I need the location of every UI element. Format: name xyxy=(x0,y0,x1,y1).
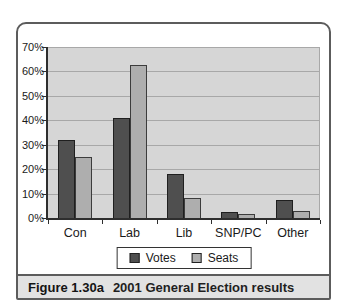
legend-item-votes: Votes xyxy=(130,251,176,265)
bar-votes-other xyxy=(276,200,293,218)
gridline xyxy=(48,145,320,146)
x-axis-label: Other xyxy=(266,226,320,240)
y-tick-label: 20% xyxy=(18,163,44,175)
x-axis-label: SNP/PC xyxy=(211,226,265,240)
y-tick-label: 60% xyxy=(18,65,44,77)
y-tick-label: 0% xyxy=(18,212,44,224)
bar-votes-con xyxy=(58,140,75,218)
y-tick-label: 30% xyxy=(18,139,44,151)
bar-seats-other xyxy=(293,211,310,218)
legend: VotesSeats xyxy=(117,247,252,269)
x-tick-mark xyxy=(157,220,158,224)
x-tick-mark xyxy=(320,220,321,224)
y-tick-label: 50% xyxy=(18,90,44,102)
x-tick-mark xyxy=(48,220,49,224)
legend-swatch-seats xyxy=(192,253,202,263)
bar-seats-lib xyxy=(184,198,201,218)
x-axis-line xyxy=(46,218,320,220)
gridline xyxy=(48,96,320,97)
y-tick-label: 10% xyxy=(18,188,44,200)
bar-seats-con xyxy=(75,157,92,218)
bar-votes-lab xyxy=(113,118,130,218)
figure-caption-title: 2001 General Election results xyxy=(113,280,294,295)
y-tick-label: 70% xyxy=(18,41,44,53)
x-tick-mark xyxy=(266,220,267,224)
legend-swatch-votes xyxy=(130,253,140,263)
gridline xyxy=(48,120,320,121)
y-axis-line xyxy=(46,47,48,220)
x-axis-label: Con xyxy=(48,226,102,240)
chart-region: 70%60%50%40%30%20%10%0%ConLabLibSNP/PCOt… xyxy=(18,24,329,274)
x-axis-label: Lib xyxy=(157,226,211,240)
figure-box: 70%60%50%40%30%20%10%0%ConLabLibSNP/PCOt… xyxy=(16,22,331,300)
x-tick-mark xyxy=(211,220,212,224)
caption-bar: Figure 1.30a 2001 General Election resul… xyxy=(18,274,329,298)
legend-item-seats: Seats xyxy=(192,251,239,265)
bar-seats-lab xyxy=(130,65,147,218)
legend-label-seats: Seats xyxy=(208,251,239,265)
x-tick-mark xyxy=(102,220,103,224)
figure-caption-label: Figure 1.30a xyxy=(28,280,104,295)
x-axis-label: Lab xyxy=(102,226,156,240)
gridline xyxy=(48,71,320,72)
legend-label-votes: Votes xyxy=(146,251,176,265)
bar-votes-lib xyxy=(167,174,184,218)
y-tick-label: 40% xyxy=(18,114,44,126)
